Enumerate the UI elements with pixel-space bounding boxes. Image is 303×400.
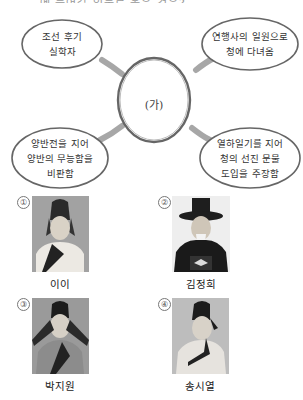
portrait-image [32,196,89,272]
node-text: 열하일기를 지어 청의 선진 문물 도입을 주장함 [217,136,283,181]
node-text: 양반전을 지어 양반의 무능함을 비판함 [27,136,93,181]
choice-name: 김정희 [161,276,241,291]
choice-name: 박지원 [20,378,100,393]
node-text: 연행사의 일원으로 청에 다녀옴 [212,29,287,59]
choice-3[interactable]: ③ 박지원 [0,290,150,400]
mindmap-node-top-right: 연행사의 일원으로 청에 다녀옴 [202,22,298,66]
node-text: 조선 후기 실학자 [42,29,81,59]
mindmap-center-label: (가) [134,96,174,112]
mind-map: 조선 후기 실학자 연행사의 일원으로 청에 다녀옴 (가) 양반전을 지어 양… [0,0,303,190]
mindmap-node-bottom-right: 열하일기를 지어 청의 선진 문물 도입을 주장함 [200,130,300,186]
portrait-figure-icon [32,298,89,374]
portrait-image [32,298,89,374]
choice-number: ④ [158,298,171,311]
mindmap-node-top-left: 조선 후기 실학자 [22,24,102,64]
choice-name: 송시열 [160,378,240,393]
choice-number: ③ [17,298,30,311]
choice-number: ② [158,196,171,209]
choice-4[interactable]: ④ 송시열 [150,290,303,400]
portrait-image [172,196,230,272]
choice-2[interactable]: ② 김정희 [150,190,303,290]
choice-number: ① [17,196,30,209]
choice-1[interactable]: ① 이이 [0,190,150,290]
portrait-figure-icon [172,298,229,374]
choice-name: 이이 [20,276,100,291]
portrait-figure-icon [172,196,230,272]
mindmap-node-bottom-left: 양반전을 지어 양반의 무능함을 비판함 [12,130,108,186]
portrait-figure-icon [32,196,89,272]
portrait-image [172,298,229,374]
